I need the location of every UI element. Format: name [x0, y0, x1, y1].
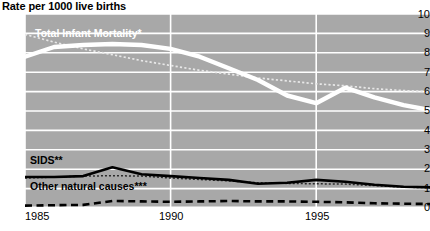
- series-other-natural-causes: [25, 201, 430, 206]
- plot-svg: [25, 14, 430, 208]
- y-tick-1: 1: [408, 183, 430, 194]
- plot-area: Total Infant Mortality* SIDS** Other nat…: [25, 14, 430, 208]
- y-tick-2: 2: [408, 163, 430, 174]
- y-tick-7: 7: [408, 67, 430, 78]
- y-tick-5: 5: [408, 105, 430, 116]
- series-label-sids: SIDS**: [30, 155, 63, 166]
- y-tick-10: 10: [408, 9, 430, 20]
- series-label-total-infant-mortality: Total Infant Mortality*: [35, 28, 142, 39]
- y-tick-4: 4: [408, 125, 430, 136]
- x-axis: 1985 1990 1995: [0, 209, 430, 231]
- chart-figure: Rate per 1000 live births: [0, 0, 430, 231]
- y-tick-8: 8: [408, 47, 430, 58]
- y-axis: [0, 0, 23, 231]
- x-tick-1990: 1990: [159, 210, 183, 222]
- y-tick-9: 9: [408, 28, 430, 39]
- series-total-infant-mortality: [25, 44, 430, 110]
- y-tick-6: 6: [408, 86, 430, 97]
- x-tick-1985: 1985: [25, 210, 49, 222]
- series-label-other-natural-causes: Other natural causes***: [30, 181, 147, 192]
- x-tick-1995: 1995: [305, 210, 329, 222]
- y-tick-3: 3: [408, 144, 430, 155]
